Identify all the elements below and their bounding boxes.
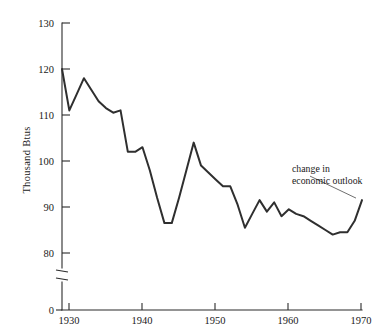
- chart-container: 130 120 110 100 90 80 0 1930 1940 1950 1…: [0, 0, 388, 329]
- x-tick-label-1960: 1960: [278, 315, 299, 326]
- y-tick-label-80: 80: [44, 248, 55, 259]
- y-axis-title: Thousand Btus: [21, 126, 32, 193]
- line-chart: 130 120 110 100 90 80 0 1930 1940 1950 1…: [0, 0, 388, 329]
- x-tick-label-1940: 1940: [132, 315, 153, 326]
- y-tick-label-100: 100: [38, 156, 54, 167]
- y-tick-label-0: 0: [49, 305, 54, 316]
- x-tick-label-1970: 1970: [351, 315, 372, 326]
- y-tick-label-90: 90: [44, 202, 55, 213]
- x-tick-label-1950: 1950: [205, 315, 226, 326]
- annotation-line-1: change in: [292, 163, 330, 174]
- annotation-line-2: economic outlook: [292, 175, 363, 186]
- y-tick-label-130: 130: [38, 18, 54, 29]
- x-tick-label-1930: 1930: [59, 315, 80, 326]
- y-tick-label-120: 120: [38, 64, 54, 75]
- y-tick-label-110: 110: [39, 110, 54, 121]
